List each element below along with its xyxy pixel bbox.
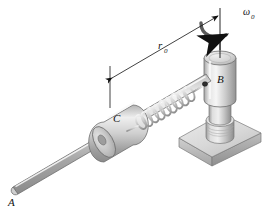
angular-velocity-label-subscript: 0 bbox=[251, 13, 255, 21]
anchor-pin-head bbox=[202, 82, 207, 87]
figure-canvas: r 0 ω 0 B C A bbox=[0, 0, 272, 211]
rotation-arrow bbox=[201, 23, 226, 37]
collar-label: C bbox=[113, 112, 121, 124]
spring-anchor-pin bbox=[202, 82, 207, 87]
dimension-label: r bbox=[158, 39, 163, 51]
mechanics-figure: r 0 ω 0 B C A bbox=[0, 0, 272, 211]
sliding-collar bbox=[88, 102, 149, 162]
dimension-label-subscript: 0 bbox=[164, 47, 168, 55]
rod-end-label: A bbox=[7, 196, 15, 208]
angular-velocity-label: ω bbox=[243, 6, 250, 17]
post-label: B bbox=[217, 73, 224, 85]
